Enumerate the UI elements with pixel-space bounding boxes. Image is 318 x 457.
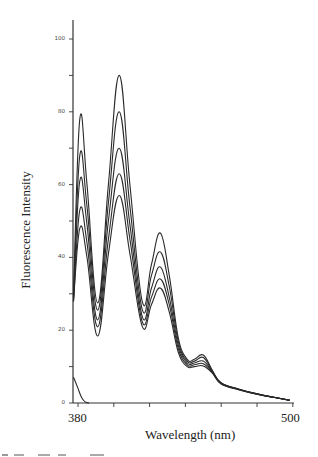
y-tick-label: 60 bbox=[45, 181, 65, 187]
x-tick-label: 500 bbox=[281, 411, 300, 426]
y-tick-label: 80 bbox=[45, 108, 65, 114]
blank-spectrum-curve bbox=[74, 378, 89, 404]
spectra-curves bbox=[74, 75, 290, 403]
x-tick-label: 380 bbox=[68, 411, 87, 426]
spectrum-curve bbox=[74, 174, 290, 400]
spectrum-plot bbox=[0, 0, 318, 457]
y-axis-label: Fluorescence Intensity bbox=[18, 171, 34, 288]
y-tick-label: 0 bbox=[45, 399, 65, 405]
x-axis-label: Wavelength (nm) bbox=[145, 427, 235, 443]
y-tick-label: 40 bbox=[45, 253, 65, 259]
cut-off-caption bbox=[0, 452, 120, 457]
y-tick-label: 100 bbox=[45, 35, 65, 41]
y-tick-label: 20 bbox=[45, 326, 65, 332]
